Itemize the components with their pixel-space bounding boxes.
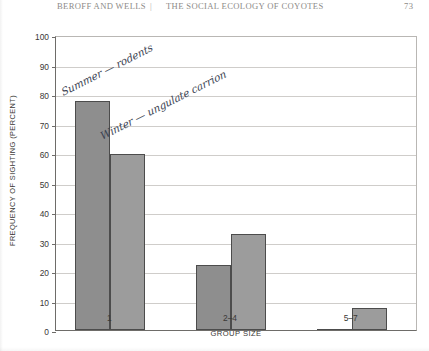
y-axis-tick (52, 37, 56, 38)
y-axis-tick (52, 244, 56, 245)
y-axis-tick (52, 67, 56, 68)
y-axis-tick (52, 126, 56, 127)
plot-area: 0102030405060708090100 (55, 36, 417, 331)
y-axis-tick (52, 155, 56, 156)
bar-chart-figure: FREQUENCY OF SIGHTING (PERCENT) 01020304… (0, 14, 429, 351)
y-axis-tick-label: 100 (35, 32, 49, 42)
running-head-title: THE SOCIAL ECOLOGY OF COYOTES (166, 1, 324, 11)
y-axis-tick-label: 10 (40, 298, 49, 308)
y-axis-tick (52, 96, 56, 97)
y-axis-tick-label: 70 (40, 121, 49, 131)
running-head: BEROFF AND WELLS | THE SOCIAL ECOLOGY OF… (0, 0, 429, 14)
x-axis-tick-label: 1 (107, 313, 112, 323)
y-axis-tick-label: 50 (40, 180, 49, 190)
y-axis-tick-label: 80 (40, 91, 49, 101)
y-axis-tick (52, 303, 56, 304)
y-axis-tick (52, 214, 56, 215)
y-axis-tick (52, 185, 56, 186)
running-head-separator: | (150, 1, 152, 11)
y-axis-tick (52, 273, 56, 274)
y-axis-tick-label: 40 (40, 209, 49, 219)
running-head-authors: BEROFF AND WELLS (57, 1, 146, 11)
y-axis-tick-label: 0 (44, 327, 49, 337)
bar (110, 154, 145, 330)
y-axis-tick-label: 60 (40, 150, 49, 160)
x-axis-tick-label: 2–4 (223, 313, 237, 323)
y-axis-tick-label: 90 (40, 62, 49, 72)
x-axis-title: GROUP SIZE (55, 329, 417, 338)
x-axis-tick-label: 5–7 (344, 313, 358, 323)
page-number: 73 (404, 1, 413, 11)
y-axis-tick-label: 30 (40, 239, 49, 249)
gridline (56, 96, 416, 97)
y-axis-tick-label: 20 (40, 268, 49, 278)
y-axis-title: FREQUENCY OF SIGHTING (PERCENT) (8, 66, 17, 276)
